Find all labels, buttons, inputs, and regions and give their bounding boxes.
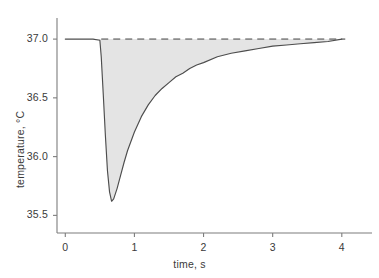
area-fill-path [93, 39, 342, 201]
y-tick-label: 36.5 [0, 91, 48, 103]
shaded-recovery-area [93, 39, 342, 201]
y-axis-title: temperature, °C [14, 111, 26, 188]
y-tick-label: 37.0 [0, 32, 48, 44]
x-tick-label: 3 [253, 241, 293, 253]
x-tick-label: 4 [322, 241, 362, 253]
x-axis-ticks [65, 233, 342, 237]
x-axis-title: time, s [0, 258, 379, 270]
y-axis-ticks [53, 39, 57, 215]
x-tick-label: 1 [114, 241, 154, 253]
x-tick-label: 2 [184, 241, 224, 253]
chart-container: 35.536.036.537.0 01234 temperature, °C t… [0, 0, 379, 278]
y-tick-label: 35.5 [0, 208, 48, 220]
x-tick-label: 0 [45, 241, 85, 253]
chart-plot-area [0, 0, 379, 278]
